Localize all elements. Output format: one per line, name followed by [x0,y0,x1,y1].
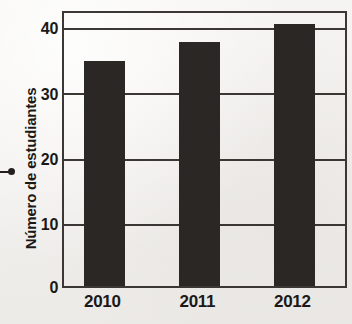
y-axis-tick-labels: 0 10 20 30 40 [22,0,58,324]
plot-area [62,11,347,288]
y-tick-label-40: 40 [24,20,58,38]
y-tick-label-30: 30 [24,86,58,104]
pointer-bullet-icon [0,167,17,177]
x-axis-tick-labels: 2010 2011 2012 [62,292,347,320]
bar-2012[interactable] [274,24,315,286]
bar-2010[interactable] [84,61,125,286]
pointer-dot [8,168,15,175]
y-tick-label-0: 0 [24,279,58,297]
y-tick-label-10: 10 [24,216,58,234]
x-tick-label-2012: 2012 [274,292,311,312]
bar-chart: Número de estudiantes 0 10 20 30 40 2010… [0,0,352,324]
bar-2011[interactable] [179,42,220,286]
x-tick-label-2011: 2011 [180,292,216,312]
y-tick-label-20: 20 [24,151,58,169]
x-tick-label-2010: 2010 [84,292,121,312]
